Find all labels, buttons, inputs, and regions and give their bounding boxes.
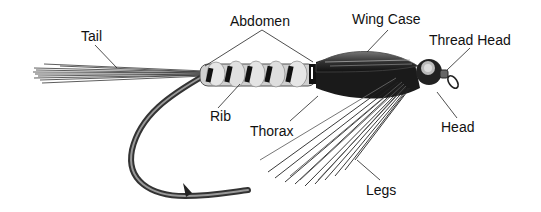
label-legs: Legs <box>366 183 396 197</box>
tail-fibres <box>33 64 205 83</box>
label-thorax: Thorax <box>250 124 294 138</box>
head-ball <box>416 59 442 85</box>
label-abdomen: Abdomen <box>230 14 290 28</box>
leader-lines <box>95 30 470 180</box>
fly-anatomy-diagram: Tail Abdomen Wing Case Thread Head Rib T… <box>0 0 541 212</box>
wing-case <box>316 51 418 72</box>
label-head: Head <box>441 120 474 134</box>
hook <box>131 75 248 197</box>
abdomen-body <box>200 61 316 87</box>
label-wing-case: Wing Case <box>352 12 420 26</box>
label-thread-head: Thread Head <box>429 33 511 47</box>
label-rib: Rib <box>210 109 231 123</box>
label-tail: Tail <box>81 29 102 43</box>
thread-head-eye <box>440 70 460 90</box>
